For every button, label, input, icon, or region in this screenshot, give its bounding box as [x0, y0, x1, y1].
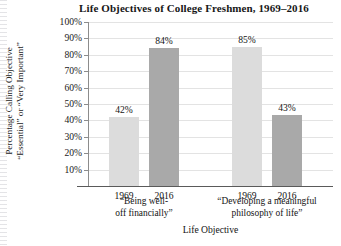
group-label: “Developing a meaningfulphilosophy of li… [192, 196, 341, 219]
y-axis-tick [84, 38, 88, 39]
bar-value-label: 84% [142, 35, 186, 46]
chart-title: Life Objectives of College Freshmen, 196… [50, 2, 338, 15]
bar [232, 47, 262, 186]
y-axis-tick [84, 120, 88, 121]
bar-value-label: 42% [102, 104, 146, 115]
y-axis-tick-label: 100% [40, 16, 82, 27]
y-axis-tick [84, 137, 88, 138]
y-axis-title: Percentage Calling Objective “Essential”… [4, 16, 34, 186]
y-axis-tick-label: 50% [40, 98, 82, 109]
x-axis-title: Life Objective [88, 224, 333, 235]
y-axis-title-line-2: “Essential” or “Very Important” [15, 16, 26, 186]
y-axis-tick [84, 153, 88, 154]
y-axis-tick [84, 88, 88, 89]
y-axis-tick [84, 55, 88, 56]
y-axis-tick-label: 40% [40, 114, 82, 125]
bar-chart-figure: Life Objectives of College Freshmen, 196… [0, 0, 341, 246]
y-axis-tick-label: 70% [40, 65, 82, 76]
gridline [89, 38, 333, 39]
y-axis-tick-label: 10% [40, 164, 82, 175]
y-axis-tick-label: 80% [40, 49, 82, 60]
y-axis-tick-label: 20% [40, 147, 82, 158]
y-axis-tick-label: 90% [40, 32, 82, 43]
group-label-line: philosophy of life” [192, 208, 341, 220]
x-axis-line [77, 186, 333, 187]
gridline [89, 55, 333, 56]
bar [272, 115, 302, 186]
y-axis-tick [84, 170, 88, 171]
gridline [89, 22, 333, 23]
bar-value-label: 43% [265, 102, 309, 113]
y-axis-tick [84, 22, 88, 23]
bar-value-label: 85% [225, 34, 269, 45]
group-label: “Being well-off financially” [92, 196, 196, 219]
y-axis-tick [84, 104, 88, 105]
group-label-line: “Developing a meaningful [192, 196, 341, 208]
plot-area: 42%84%85%43% 1969201619692016 [88, 22, 333, 187]
y-axis-tick-label: 60% [40, 82, 82, 93]
gridline [89, 88, 333, 89]
y-axis-tick [84, 71, 88, 72]
y-axis-tick-label: 30% [40, 131, 82, 142]
group-label-line: off financially” [92, 208, 196, 220]
bar [149, 48, 179, 186]
group-label-line: “Being well- [92, 196, 196, 208]
bar [109, 117, 139, 186]
gridline [89, 71, 333, 72]
y-axis-title-line-1: Percentage Calling Objective [4, 16, 15, 186]
